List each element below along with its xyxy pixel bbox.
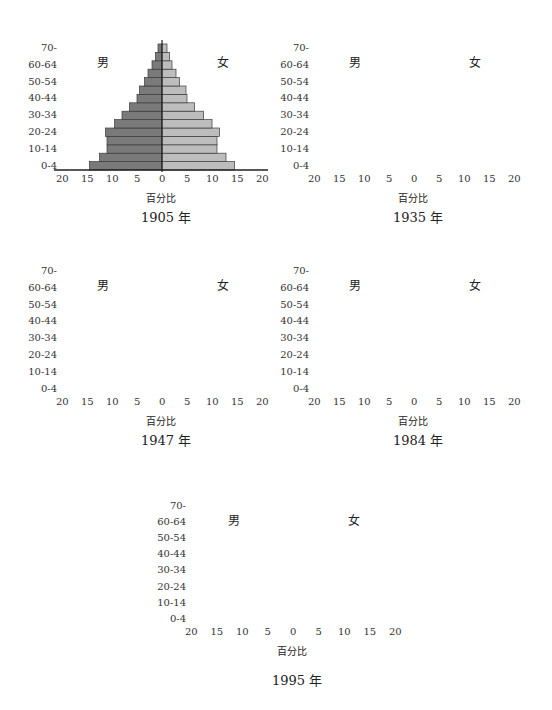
x-tick-label: 10 [358, 396, 371, 407]
age-tick-label: 20-24 [28, 349, 57, 360]
x-tick-label: 15 [231, 396, 244, 407]
age-tick-label: 50-54 [157, 532, 186, 543]
age-tick-label: 20-24 [280, 126, 309, 137]
x-tick-label: 10 [236, 626, 249, 637]
male-label: 男 [228, 511, 240, 528]
age-tick-label: 30-34 [28, 332, 57, 343]
age-tick-label: 40-44 [28, 315, 57, 326]
male-bar [106, 128, 163, 136]
x-tick-label: 10 [206, 396, 219, 407]
female-label: 女 [348, 511, 360, 528]
x-tick-label: 20 [308, 396, 321, 407]
female-bar [162, 128, 220, 136]
x-axis-title: 百分比 [277, 643, 307, 658]
chart-title: 1935 年 [393, 207, 443, 226]
female-bar [162, 61, 172, 69]
x-axis-title: 百分比 [398, 190, 428, 205]
female-bar [162, 162, 235, 170]
x-axis-title: 百分比 [146, 190, 176, 205]
x-tick-label: 20 [185, 626, 198, 637]
age-tick-label: 0-4 [41, 160, 57, 171]
x-tick-label: 5 [386, 173, 392, 184]
age-tick-label: 50-54 [280, 299, 309, 310]
age-tick-label: 30-34 [280, 332, 309, 343]
chart-title: 1947 年 [141, 430, 191, 449]
male-label: 男 [349, 276, 361, 293]
male-bar [152, 61, 162, 69]
age-tick-label: 20-24 [28, 126, 57, 137]
female-bar [162, 86, 186, 94]
age-tick-label: 10-14 [28, 143, 57, 154]
female-label: 女 [217, 53, 229, 70]
pyramid-plot [0, 0, 552, 710]
male-bar [90, 162, 163, 170]
age-tick-label: 10-14 [28, 366, 57, 377]
male-bar [137, 94, 162, 102]
female-bar [162, 69, 176, 77]
male-bar [140, 86, 163, 94]
x-tick-label: 15 [364, 626, 377, 637]
x-tick-label: 10 [358, 173, 371, 184]
age-tick-label: 60-64 [280, 282, 309, 293]
x-tick-label: 10 [206, 173, 219, 184]
female-bar [162, 44, 167, 52]
age-tick-label: 10-14 [280, 366, 309, 377]
female-label: 女 [469, 53, 481, 70]
x-tick-label: 5 [184, 396, 190, 407]
x-tick-label: 15 [81, 173, 94, 184]
age-tick-label: 0-4 [293, 383, 309, 394]
x-tick-label: 15 [231, 173, 244, 184]
female-bar [162, 94, 187, 102]
chart-title: 1995 年 [272, 670, 322, 689]
x-tick-label: 10 [106, 396, 119, 407]
chart-title: 1984 年 [393, 430, 443, 449]
x-tick-label: 10 [106, 173, 119, 184]
x-tick-label: 5 [184, 173, 190, 184]
x-tick-label: 15 [483, 173, 496, 184]
female-bar [162, 153, 226, 161]
x-axis-title: 百分比 [398, 413, 428, 428]
x-tick-label: 20 [256, 396, 269, 407]
x-tick-label: 15 [333, 396, 346, 407]
age-tick-label: 20-24 [280, 349, 309, 360]
x-tick-label: 0 [159, 396, 165, 407]
male-label: 男 [349, 53, 361, 70]
age-tick-label: 30-34 [28, 109, 57, 120]
chart-title: 1905 年 [141, 207, 191, 226]
x-axis-title: 百分比 [146, 413, 176, 428]
age-tick-label: 50-54 [280, 76, 309, 87]
x-tick-label: 5 [316, 626, 322, 637]
x-tick-label: 5 [386, 396, 392, 407]
x-tick-label: 20 [508, 173, 521, 184]
x-tick-label: 20 [56, 173, 69, 184]
x-tick-label: 15 [211, 626, 224, 637]
age-tick-label: 70- [41, 265, 57, 276]
male-bar [145, 78, 163, 86]
x-tick-label: 5 [436, 396, 442, 407]
age-tick-label: 50-54 [28, 76, 57, 87]
age-tick-label: 60-64 [28, 59, 57, 70]
age-tick-label: 60-64 [28, 282, 57, 293]
x-tick-label: 15 [483, 396, 496, 407]
male-bar [100, 153, 163, 161]
female-bar [162, 103, 195, 111]
age-tick-label: 70- [293, 265, 309, 276]
female-label: 女 [217, 276, 229, 293]
age-tick-label: 0-4 [293, 160, 309, 171]
male-bar [156, 52, 163, 60]
female-bar [162, 111, 204, 119]
age-tick-label: 30-34 [157, 564, 186, 575]
x-tick-label: 10 [458, 173, 471, 184]
age-tick-label: 20-24 [157, 581, 186, 592]
male-bar [130, 103, 163, 111]
female-bar [162, 52, 170, 60]
x-tick-label: 0 [411, 396, 417, 407]
x-tick-label: 15 [81, 396, 94, 407]
age-tick-label: 30-34 [280, 109, 309, 120]
x-tick-label: 20 [308, 173, 321, 184]
male-bar [107, 136, 162, 144]
age-tick-label: 50-54 [28, 299, 57, 310]
x-tick-label: 5 [134, 173, 140, 184]
female-bar [162, 136, 217, 144]
female-bar [162, 78, 180, 86]
